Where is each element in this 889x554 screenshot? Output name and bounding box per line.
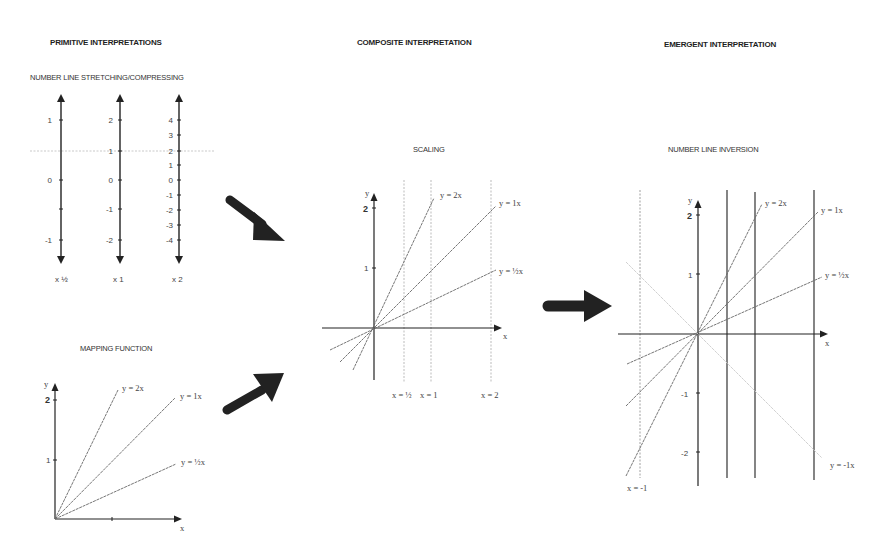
svg-text:x = 2: x = 2 — [481, 390, 499, 400]
svg-text:0: 0 — [48, 176, 53, 185]
svg-text:1: 1 — [688, 271, 693, 280]
svg-text:1: 1 — [169, 161, 174, 170]
svg-text:2: 2 — [363, 204, 368, 214]
svg-text:1: 1 — [109, 147, 114, 156]
svg-text:-1: -1 — [45, 236, 53, 245]
svg-text:y: y — [365, 188, 370, 198]
number-line-one: 2 1 0 -1 -2 x 1 — [106, 94, 124, 284]
svg-text:y = ½x: y = ½x — [825, 270, 850, 280]
mapping-graph: 2 1 y x y = 2x y = 1x y = ½x — [44, 379, 206, 533]
svg-text:x 1: x 1 — [113, 275, 124, 284]
arrow-to-composite-top — [230, 200, 285, 241]
svg-text:y: y — [688, 195, 693, 205]
svg-text:y = 1x: y = 1x — [821, 205, 844, 215]
svg-text:-3: -3 — [166, 221, 174, 230]
svg-text:0: 0 — [169, 176, 174, 185]
svg-text:1: 1 — [48, 116, 53, 125]
svg-text:2: 2 — [687, 211, 692, 221]
svg-text:y = 1x: y = 1x — [180, 391, 203, 401]
svg-text:-4: -4 — [166, 236, 174, 245]
svg-text:x = 1: x = 1 — [420, 390, 438, 400]
svg-text:-2: -2 — [106, 236, 114, 245]
svg-text:-1: -1 — [681, 390, 689, 399]
svg-text:y = ½x: y = ½x — [499, 266, 524, 276]
svg-text:3: 3 — [169, 131, 174, 140]
scaling-graph: 2 1 y x y = 2x y = 1x y = ½x x = ½ x = 1… — [322, 180, 524, 400]
svg-text:y = 2x: y = 2x — [765, 198, 788, 208]
svg-text:x = -1: x = -1 — [627, 483, 647, 493]
svg-text:x: x — [503, 331, 508, 341]
svg-text:1: 1 — [46, 456, 51, 465]
svg-text:x ½: x ½ — [55, 275, 68, 284]
svg-text:x: x — [180, 523, 185, 533]
diagram-canvas: 1 0 -1 x ½ 2 1 0 -1 -2 x 1 4 3 2 1 0 — [0, 0, 889, 554]
svg-text:-2: -2 — [681, 449, 689, 458]
svg-text:y = 1x: y = 1x — [499, 198, 522, 208]
svg-text:y = 2x: y = 2x — [440, 190, 463, 200]
inversion-graph: 2 1 -1 -2 y x y = 2x y = 1x y = ½x y = -… — [618, 190, 855, 493]
svg-text:-1: -1 — [166, 191, 174, 200]
number-lines: 1 0 -1 x ½ 2 1 0 -1 -2 x 1 4 3 2 1 0 — [30, 94, 215, 284]
svg-text:-2: -2 — [166, 206, 174, 215]
svg-text:x = ½: x = ½ — [392, 390, 412, 400]
svg-text:x: x — [825, 338, 830, 348]
number-line-half: 1 0 -1 x ½ — [45, 94, 68, 284]
svg-text:y = -1x: y = -1x — [830, 460, 855, 470]
arrow-to-composite-bottom — [227, 373, 284, 410]
svg-text:y: y — [44, 379, 49, 389]
arrow-to-emergent — [548, 290, 612, 322]
svg-text:y = 2x: y = 2x — [122, 383, 145, 393]
svg-text:x 2: x 2 — [172, 275, 183, 284]
svg-text:y = ½x: y = ½x — [181, 457, 206, 467]
svg-text:4: 4 — [169, 116, 174, 125]
svg-text:2: 2 — [109, 116, 114, 125]
svg-text:-1: -1 — [106, 205, 114, 214]
number-line-two: 4 3 2 1 0 -1 -2 -3 -4 x 2 — [166, 94, 183, 284]
svg-text:2: 2 — [45, 395, 50, 405]
svg-text:2: 2 — [169, 147, 174, 156]
svg-text:0: 0 — [109, 176, 114, 185]
svg-text:1: 1 — [364, 264, 369, 273]
